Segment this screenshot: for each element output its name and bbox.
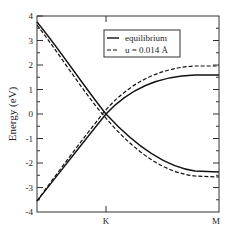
- y-tick-neg1: -1: [26, 134, 34, 144]
- y-tick-neg2: -2: [26, 158, 34, 168]
- x-tick-labels: K M: [103, 216, 220, 226]
- y-tick-0: 0: [29, 109, 34, 119]
- x-tick-k: K: [103, 216, 110, 226]
- y-tick-2: 2: [29, 60, 34, 70]
- y-tick-neg4: -4: [26, 207, 34, 217]
- legend: equilibrium u = 0.014 Å: [104, 30, 180, 57]
- y-axis-title: Energy (eV): [6, 86, 19, 141]
- y-tick-4: 4: [29, 11, 34, 21]
- y-tick-labels: 4 3 2 1 0 -1 -2 -3 -4: [26, 11, 34, 217]
- equilibrium-upper-band-line: [37, 75, 219, 201]
- band-structure-chart: 4 3 2 1 0 -1 -2 -3 -4 K M Energy (eV) eq…: [0, 0, 231, 233]
- y-tick-neg3: -3: [26, 183, 34, 193]
- y-tick-1: 1: [29, 85, 34, 95]
- legend-label-displaced: u = 0.014 Å: [125, 45, 169, 55]
- legend-label-equilibrium: equilibrium: [125, 33, 167, 43]
- displaced-upper-band-line: [37, 66, 219, 201]
- y-tick-3: 3: [29, 36, 34, 46]
- x-tick-m: M: [212, 216, 220, 226]
